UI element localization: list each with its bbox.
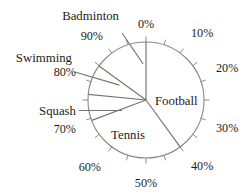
minor-tick (180, 49, 183, 53)
slice-boundary-78pct (88, 94, 146, 100)
minor-tick (193, 62, 197, 66)
slice-label-badminton: Badminton (62, 9, 119, 23)
leader-line-badminton (122, 33, 143, 64)
tick-label-30: 30% (216, 121, 238, 135)
minor-tick (109, 147, 112, 151)
slice-label-tennis: Tennis (111, 128, 145, 142)
pie-chart-svg: 0% 10% 20% 30% 40% 50% 60% 70% 80% 90% B… (0, 0, 252, 195)
slice-boundary-88pct (99, 66, 146, 100)
tick-label-0: 0% (138, 17, 154, 31)
tick-label-40: 40% (191, 159, 213, 173)
slice-label-football: Football (155, 94, 198, 108)
slice-label-squash: Squash (39, 104, 77, 118)
minor-tick (126, 155, 128, 160)
minor-tick (164, 40, 166, 45)
outer-slice-label-group: Badminton Swimming Squash (16, 9, 120, 118)
minor-tick (109, 49, 112, 53)
minor-tick (95, 134, 99, 138)
pie-chart-figure: 0% 10% 20% 30% 40% 50% 60% 70% 80% 90% B… (0, 0, 252, 195)
tick-label-70: 70% (54, 122, 76, 136)
tick-label-20: 20% (216, 61, 238, 75)
minor-tick (164, 155, 166, 160)
minor-tick (95, 62, 99, 66)
tick-label-60: 60% (79, 160, 101, 174)
leader-line-swimming (75, 72, 119, 85)
minor-tick (193, 134, 197, 138)
tick-label-80: 80% (54, 65, 76, 79)
slice-label-swimming: Swimming (16, 51, 73, 65)
minor-tick (180, 147, 183, 151)
inner-slice-label-group: Football Tennis (111, 94, 198, 142)
tick-label-50: 50% (135, 176, 157, 190)
tick-label-90: 90% (81, 29, 103, 43)
tick-label-10: 10% (191, 26, 213, 40)
